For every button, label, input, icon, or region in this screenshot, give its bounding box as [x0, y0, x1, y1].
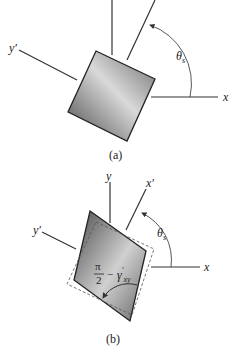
y-prime-label-a: y′: [8, 41, 17, 55]
svg-text:θs: θs: [157, 226, 166, 242]
y-prime-axis-b: [42, 232, 76, 249]
svg-text:2: 2: [96, 274, 102, 286]
angle-arc-a: [150, 25, 191, 97]
x-prime-label-b: x′: [145, 176, 154, 190]
rotated-element-a: [68, 51, 155, 141]
x-label-a: x: [222, 90, 229, 104]
x-label-b: x: [203, 260, 210, 274]
figure-b: θs x y x′ y′ π 2 − γ′xy (b): [32, 169, 210, 346]
angle-arc-b: [142, 213, 171, 267]
y-prime-axis-a: [19, 50, 77, 80]
stress-element-diagram: θs x y′ (a) θs x y x′ y′ π 2 − γ′xy (b): [0, 0, 237, 352]
figure-a: θs x y′ (a): [8, 0, 229, 162]
svg-text:−: −: [107, 268, 113, 280]
x-prime-axis-b: [126, 189, 146, 230]
svg-text:π: π: [95, 260, 101, 272]
caption-b: (b): [106, 332, 120, 346]
x-prime-axis-a: [127, 0, 155, 60]
y-prime-label-b: y′: [32, 223, 41, 237]
caption-a: (a): [109, 148, 122, 162]
svg-text:θs: θs: [176, 49, 185, 65]
y-label-b: y: [105, 169, 112, 183]
